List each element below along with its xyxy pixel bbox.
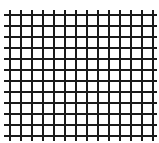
grid-vertical-line: [42, 10, 44, 141]
grid-vertical-line: [9, 10, 11, 141]
grid-vertical-line: [75, 10, 77, 141]
grid-vertical-line: [86, 10, 88, 141]
grid-vertical-line: [152, 10, 154, 141]
grid-horizontal-line: [4, 25, 157, 27]
grid-pattern: [0, 0, 159, 143]
grid-horizontal-line: [4, 47, 157, 49]
grid-horizontal-line: [4, 36, 157, 38]
grid-horizontal-line: [4, 113, 157, 115]
grid-horizontal-line: [4, 135, 157, 137]
grid-vertical-line: [64, 10, 66, 141]
grid-vertical-line: [119, 10, 121, 141]
grid-vertical-line: [108, 10, 110, 141]
grid-horizontal-line: [4, 91, 157, 93]
grid-horizontal-line: [4, 14, 157, 16]
grid-horizontal-line: [4, 124, 157, 126]
grid-horizontal-line: [4, 58, 157, 60]
grid-vertical-line: [130, 10, 132, 141]
grid-vertical-line: [53, 10, 55, 141]
grid-vertical-line: [141, 10, 143, 141]
grid-vertical-line: [97, 10, 99, 141]
grid-vertical-line: [20, 10, 22, 141]
grid-horizontal-line: [4, 102, 157, 104]
grid-horizontal-line: [4, 80, 157, 82]
grid-vertical-line: [31, 10, 33, 141]
grid-horizontal-line: [4, 69, 157, 71]
